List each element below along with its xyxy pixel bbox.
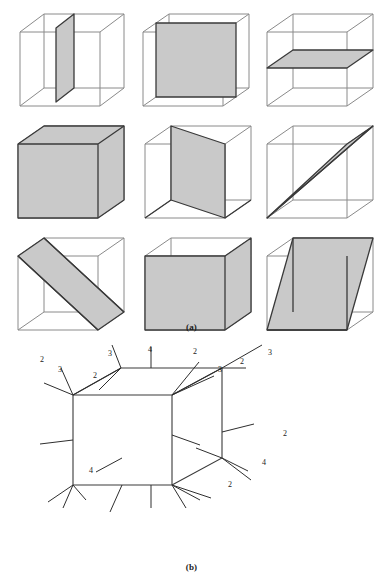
label-2-top-left: 2 bbox=[40, 355, 44, 364]
cube-1-svg bbox=[6, 6, 134, 118]
panel-b-svg: 3 2 2 3 4 2 3 2 3 2 4 4 2 bbox=[0, 340, 383, 570]
caption-panel-a: (a) bbox=[0, 322, 383, 332]
cube-3-section-plane bbox=[267, 50, 373, 68]
cube-9-section-plane bbox=[267, 238, 373, 330]
label-3-top-apex: 3 bbox=[108, 349, 112, 358]
cube-5-svg bbox=[133, 118, 261, 230]
caption-panel-b: (b) bbox=[0, 562, 383, 572]
label-2-top-mid: 2 bbox=[93, 371, 97, 380]
cube-3-horizontal-plane-parallel-to-top-face bbox=[255, 6, 383, 118]
cube-4-svg bbox=[6, 118, 134, 230]
cube-4-diagonal-plane-top-back-to-bottom-front bbox=[6, 118, 134, 230]
label-4-top: 4 bbox=[148, 345, 152, 354]
cube-8-section-plane bbox=[145, 238, 251, 330]
figure-root: (a) bbox=[0, 0, 383, 585]
leader-labels: 3 2 2 3 4 2 3 2 3 2 4 4 2 bbox=[40, 345, 287, 489]
cube-6-narrow-plane-through-space-diagonal bbox=[255, 118, 383, 230]
cube-1-vertical-plane-parallel-to-side-face bbox=[6, 6, 134, 118]
cube-4-section-plane bbox=[18, 126, 124, 218]
label-4-side: 4 bbox=[262, 458, 266, 467]
label-2-side: 2 bbox=[283, 429, 287, 438]
cube-5-section-plane bbox=[171, 126, 225, 218]
label-3-top-left: 3 bbox=[58, 365, 62, 374]
cube-7-section-plane bbox=[18, 238, 124, 330]
cube-6-svg bbox=[255, 118, 383, 230]
cube-2-section-plane bbox=[156, 23, 236, 97]
cube-1-section-plane bbox=[56, 14, 74, 102]
cube-3-svg bbox=[255, 6, 383, 118]
panel-b-labeled-cube: 3 2 2 3 4 2 3 2 3 2 4 4 2 (b) bbox=[0, 340, 383, 585]
label-3-right-outer: 3 bbox=[268, 348, 272, 357]
labeled-cube-wireframe bbox=[73, 368, 222, 485]
label-2-lower-right: 2 bbox=[228, 480, 232, 489]
panel-a-cube-sections: (a) bbox=[0, 0, 383, 340]
label-2-top-right: 2 bbox=[193, 347, 197, 356]
cube-2-svg bbox=[133, 6, 261, 118]
label-2-right-inner: 2 bbox=[240, 357, 244, 366]
label-4-front-face: 4 bbox=[89, 466, 93, 475]
cube-2-vertical-plane-parallel-to-front-face bbox=[133, 6, 261, 118]
cube-5-vertical-plane-through-base-diagonal bbox=[133, 118, 261, 230]
label-3-right-inner: 3 bbox=[218, 365, 222, 374]
cube-6-section-diagonal bbox=[267, 126, 373, 218]
